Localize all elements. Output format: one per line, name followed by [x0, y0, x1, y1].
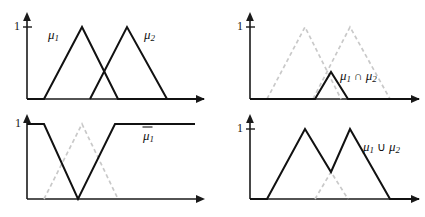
panel-bottom-right: 1 μ1 ∪ μ2 [237, 114, 420, 203]
mu2-triangle [90, 27, 167, 99]
mu1-cup-mu2-label: μ1 ∪ μ2 [362, 139, 401, 155]
complement-curve [27, 124, 195, 199]
mu1-triangle-ghost [267, 27, 341, 99]
panel-top-right: 1 μ1 ∩ μ2 [237, 12, 420, 103]
intersection-curve [250, 72, 419, 99]
y-tick-label-bottom-left: 1 [15, 116, 21, 130]
y-axis-arrow-top-left [23, 12, 31, 21]
panel-bottom-left: 1 μ1 [15, 114, 205, 203]
mu1-complement-label: μ1 [142, 128, 154, 144]
mu1-triangle-ghost [44, 124, 118, 199]
panel-top-left: 1 μ1 μ2 [14, 12, 205, 103]
mu2-triangle-ghost [313, 27, 390, 99]
mu1-label: μ1 [47, 27, 59, 43]
y-tick-label-bottom-right: 1 [237, 121, 243, 135]
mu1-cap-mu2-label: μ1 ∩ μ2 [339, 68, 377, 84]
figure-canvas: 1 μ1 μ2 1 μ1 ∩ μ2 [0, 0, 425, 217]
y-tick-label-top-right: 1 [237, 19, 243, 33]
fuzzy-set-operations-figure: 1 μ1 μ2 1 μ1 ∩ μ2 [0, 0, 425, 217]
y-axis-arrow-bottom-left [23, 114, 31, 123]
y-tick-label-top-left: 1 [14, 19, 20, 33]
mu2-label: μ2 [143, 27, 156, 43]
y-axis-arrow-top-right [246, 12, 254, 21]
intersection-triangle-ghost [315, 172, 348, 199]
x-axis-arrow-bottom-left [196, 195, 205, 203]
y-axis-arrow-bottom-right [246, 114, 254, 123]
